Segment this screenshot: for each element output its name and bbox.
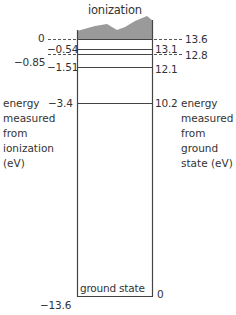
right-axis-line: state (eV) <box>181 156 236 171</box>
left-axis-description: energy measured from ionization (eV) <box>3 96 63 171</box>
left-axis-line: energy <box>3 96 63 111</box>
level-right-label: 10.2 <box>155 97 178 109</box>
right-axis-line: ground <box>181 141 236 156</box>
ground-state-label: ground state <box>80 282 145 294</box>
level-right-label: 13.1 <box>155 43 178 55</box>
level-right-label: 12.8 <box>185 49 208 61</box>
ionization-label: ionization <box>88 4 142 16</box>
left-axis-line: (eV) <box>3 156 63 171</box>
level-left-label: −13.6 <box>40 299 71 311</box>
level-left-label: −0.85 <box>14 56 45 68</box>
right-axis-line: from <box>181 126 236 141</box>
left-axis-line: from <box>3 126 63 141</box>
right-axis-line: measured <box>181 111 236 126</box>
level-left-label: −1.51 <box>47 61 78 73</box>
right-axis-description: energy measured from ground state (eV) <box>181 96 236 171</box>
left-axis-line: measured <box>3 111 63 126</box>
left-axis-line: ionization <box>3 141 63 156</box>
right-axis-line: energy <box>181 96 236 111</box>
level-right-label: 13.6 <box>185 33 208 45</box>
level-left-label: −0.54 <box>47 43 78 55</box>
level-right-label: 12.1 <box>155 63 178 75</box>
level-left-label: 0 <box>38 32 44 44</box>
level-right-label: 0 <box>157 288 163 300</box>
ionization-continuum <box>77 16 153 39</box>
